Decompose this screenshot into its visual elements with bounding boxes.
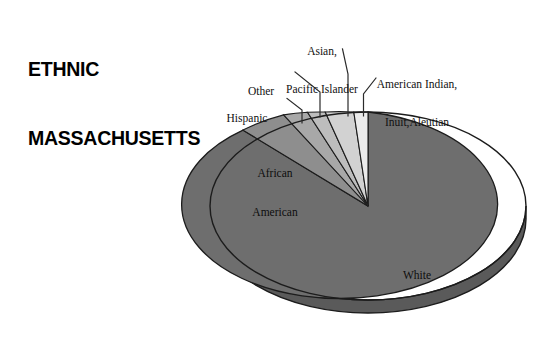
slice-label-african-american: African American: [232, 141, 318, 245]
slice-label-white-line-1: White: [389, 269, 445, 282]
slice-label-african-american-line-1: African: [232, 167, 318, 180]
callout-american-indian-inuit-aleutian: American Indian, Inuit,Aleutian: [358, 53, 476, 153]
slice-label-white: White: [389, 243, 445, 308]
callout-american-indian-line-2: Inuit,Aleutian: [358, 116, 476, 129]
slice-label-african-american-line-2: American: [232, 206, 318, 219]
pie-chart-figure: ETHNIC MASSACHUSETTS: [0, 0, 539, 349]
callout-american-indian-line-1: American Indian,: [358, 78, 476, 91]
callout-hispanic-line-1: Hispanic: [209, 112, 285, 125]
callout-asian-line-1: Asian,: [274, 45, 370, 58]
